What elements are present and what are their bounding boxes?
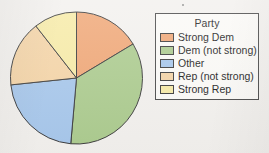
pie-slice[interactable]: Other — [11, 78, 77, 144]
legend-color-swatch — [160, 72, 174, 81]
legend-item-list: Strong DemDem (not strong)OtherRep (not … — [156, 31, 258, 96]
legend-item[interactable]: Strong Dem — [160, 31, 258, 44]
legend-item[interactable]: Rep (not strong) — [160, 70, 258, 83]
legend-title: Party — [156, 17, 258, 29]
pie-chart-svg: Strong DemDem (not strong)OtherRep (not … — [0, 0, 155, 153]
legend-box: Party Strong DemDem (not strong)OtherRep… — [155, 13, 259, 100]
legend-color-swatch — [160, 59, 174, 68]
legend-item-label: Strong Rep — [178, 84, 231, 95]
pie-slice-group: Strong DemDem (not strong)OtherRep (not … — [10, 12, 142, 144]
legend-item[interactable]: Other — [160, 57, 258, 70]
legend-item-label: Other — [178, 58, 204, 69]
pie-chart-figure: Strong DemDem (not strong)OtherRep (not … — [0, 0, 269, 153]
legend-item-label: Dem (not strong) — [178, 45, 257, 56]
scan-speck — [182, 4, 184, 6]
legend-color-swatch — [160, 33, 174, 42]
legend-item[interactable]: Strong Rep — [160, 83, 258, 96]
pie-chart-area: Strong DemDem (not strong)OtherRep (not … — [0, 0, 155, 153]
legend-color-swatch — [160, 46, 174, 55]
legend-item-label: Rep (not strong) — [178, 71, 254, 82]
legend-item-label: Strong Dem — [178, 32, 234, 43]
legend-item[interactable]: Dem (not strong) — [160, 44, 258, 57]
legend-color-swatch — [160, 85, 174, 94]
